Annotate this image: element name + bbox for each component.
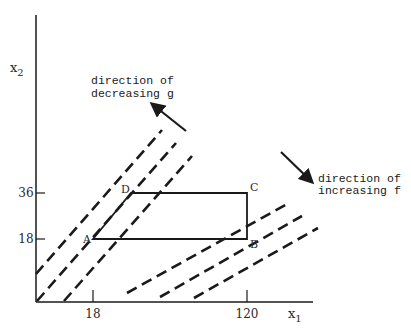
g-contour-3: [64, 156, 192, 301]
y-tick-label-18: 18: [18, 232, 33, 246]
x-tick-label-18: 18: [85, 307, 100, 321]
g-contour-lines: [36, 130, 192, 301]
x-tick-label-120: 120: [236, 307, 259, 321]
vertex-label-d: D: [121, 183, 130, 196]
f-contour-2: [160, 216, 302, 297]
increasing-f-arrow-icon: [281, 152, 312, 182]
f-contour-1: [127, 204, 287, 293]
y-axis-label: x2: [10, 60, 24, 78]
g-contour-1: [36, 130, 162, 274]
y-tick-label-36: 36: [18, 186, 33, 200]
x-axis-label: x1: [288, 306, 302, 324]
decreasing-g-annotation-line2: decreasing g: [91, 87, 174, 100]
feasible-region: [93, 193, 247, 239]
decreasing-g-arrow-icon: [152, 104, 186, 131]
vertex-label-c: C: [250, 181, 258, 194]
increasing-f-annotation-line2: increasing f: [318, 184, 401, 197]
vertex-label-b: B: [250, 238, 258, 251]
feasible-region-diagram: 18 120 36 18 x1 x2 A B C D direction of …: [0, 0, 411, 332]
decreasing-g-annotation-line1: direction of: [91, 74, 174, 87]
vertex-label-a: A: [82, 233, 92, 246]
f-contour-lines: [127, 204, 318, 298]
